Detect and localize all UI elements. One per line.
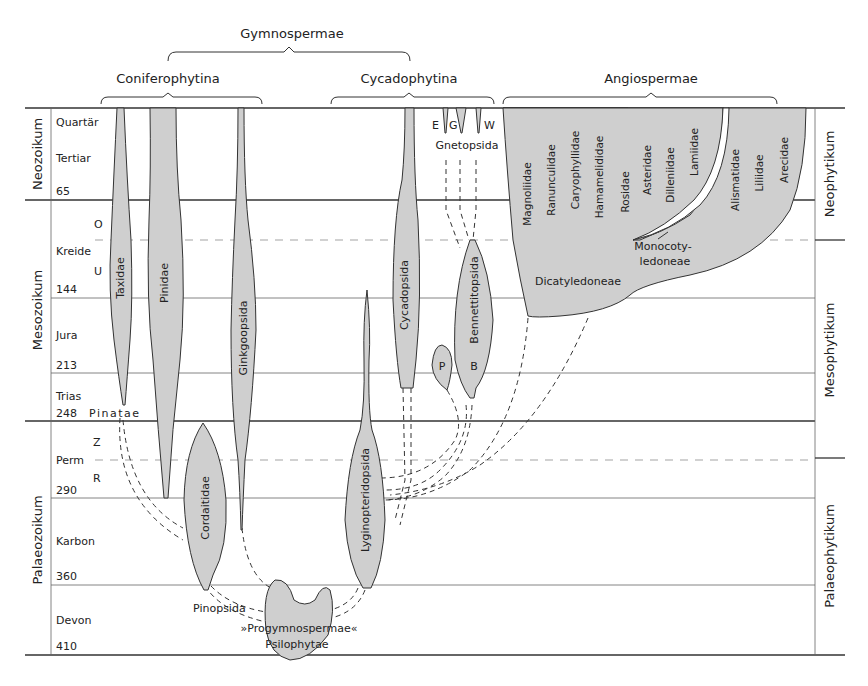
label-cordaitidae: Cordaitidae xyxy=(199,476,212,540)
label-monocotyledoneae-1: Monocoty- xyxy=(634,240,691,253)
era-mesozoikum: Mesozoikum xyxy=(30,270,45,350)
label-taxidae: Taxidae xyxy=(114,257,127,300)
kreide-o: O xyxy=(94,218,103,231)
era-palaeozoikum: Palaeozoikum xyxy=(30,495,45,584)
label-b: B xyxy=(470,360,478,373)
brace-angiospermae xyxy=(503,93,777,104)
era-palaeophytikum: Palaeophytikum xyxy=(822,504,837,608)
label-magnoliidae: Magnoliidae xyxy=(521,162,533,226)
label-dicatyledoneae: Dicatyledoneae xyxy=(535,275,621,288)
period-karbon: Karbon xyxy=(56,535,95,548)
shape-taxidae xyxy=(110,108,132,405)
period-perm: Perm xyxy=(56,454,84,467)
label-rosidae: Rosidae xyxy=(619,171,631,212)
header-coniferophytina: Coniferophytina xyxy=(116,71,220,86)
label-progymnospermae: »Progymnospermae« xyxy=(241,622,358,635)
brace-coniferophytina xyxy=(101,93,262,104)
age-360: 360 xyxy=(56,570,77,583)
period-labels: Quartär Tertiar 65 O Kreide U 144 Jura 2… xyxy=(55,116,103,653)
brace-gymnospermae xyxy=(168,47,410,61)
label-bennettitopsida: Bennettitopsida xyxy=(468,256,481,343)
period-trias: Trias xyxy=(55,390,81,403)
header-gymnospermae: Gymnospermae xyxy=(240,26,343,41)
label-pinidae: Pinidae xyxy=(158,263,171,303)
age-144: 144 xyxy=(56,283,77,296)
header-angiospermae: Angiospermae xyxy=(604,71,698,86)
label-pinatae: Pinatae xyxy=(89,407,140,420)
age-65: 65 xyxy=(56,185,70,198)
plant-phylogeny-diagram: Gymnospermae Coniferophytina Cycadophyti… xyxy=(0,0,868,686)
label-monocotyledoneae-2: ledoneae xyxy=(640,255,691,268)
label-cycadopsida: Cycadopsida xyxy=(398,260,411,330)
label-ginkgoopsida: Ginkgoopsida xyxy=(237,301,250,376)
period-tertiar: Tertiar xyxy=(55,152,91,165)
perm-z: Z xyxy=(93,436,101,449)
label-e: E xyxy=(432,119,439,132)
label-g: G xyxy=(449,119,458,132)
label-arecidae: Arecidae xyxy=(778,137,790,183)
label-psilophytae: Psilophytae xyxy=(265,638,329,651)
perm-r: R xyxy=(93,472,101,485)
brace-cycadophytina xyxy=(331,93,494,104)
label-alismatidae: Alismatidae xyxy=(729,149,741,211)
label-ranunculidae: Ranunculidae xyxy=(545,144,557,215)
label-p: P xyxy=(439,360,446,373)
period-quartaer: Quartär xyxy=(56,116,99,129)
age-213: 213 xyxy=(56,359,77,372)
era-mesophytikum: Mesophytikum xyxy=(822,303,837,398)
label-gnetopsida: Gnetopsida xyxy=(436,139,499,152)
shape-cycadopsida xyxy=(393,108,420,388)
label-caryophyllidae: Caryophyllidae xyxy=(569,131,581,210)
shape-gnetopsida-e xyxy=(443,108,448,133)
left-eras: Neozoikum Mesozoikum Palaeozoikum xyxy=(30,118,45,585)
age-410: 410 xyxy=(56,640,77,653)
label-lyginopteridopsida: Lyginopteridopsida xyxy=(359,448,372,552)
age-290: 290 xyxy=(56,484,77,497)
shape-gnetopsida-w xyxy=(476,108,481,133)
label-w: W xyxy=(484,119,495,132)
header-cycadophytina: Cycadophytina xyxy=(360,71,457,86)
label-pinopsida: Pinopsida xyxy=(193,602,246,615)
label-hamamelididae: Hamamelididae xyxy=(593,136,605,219)
period-kreide: Kreide xyxy=(56,245,91,258)
period-devon: Devon xyxy=(56,614,91,627)
label-dilleniidae: Dilleniidae xyxy=(664,147,676,202)
right-eras: Neophytikum Mesophytikum Palaeophytikum xyxy=(822,131,837,608)
label-asteridae: Asteridae xyxy=(641,145,653,195)
era-neozoikum: Neozoikum xyxy=(30,118,45,190)
age-248: 248 xyxy=(56,407,77,420)
period-jura: Jura xyxy=(55,329,77,342)
era-neophytikum: Neophytikum xyxy=(822,131,837,218)
label-lamiidae: Lamiidae xyxy=(688,128,700,176)
label-liliidae: Liliidae xyxy=(753,154,765,191)
header-group: Gymnospermae Coniferophytina Cycadophyti… xyxy=(101,26,777,104)
kreide-u: U xyxy=(94,265,102,278)
taxon-shapes xyxy=(110,108,806,660)
